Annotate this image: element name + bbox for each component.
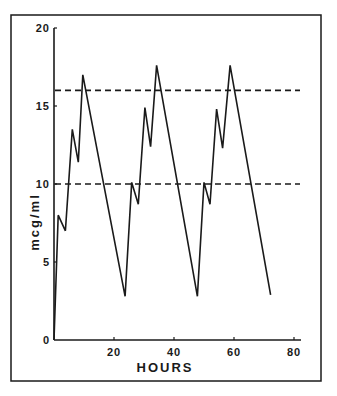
x-tick-label: 60 bbox=[227, 346, 241, 358]
y-axis-title: mcg/ml bbox=[27, 193, 42, 251]
y-tick-label: 20 bbox=[36, 22, 50, 34]
x-axis-title: HOURS bbox=[137, 360, 194, 375]
figure-frame bbox=[11, 15, 321, 381]
y-tick-label: 5 bbox=[43, 256, 50, 268]
x-tick-label: 80 bbox=[287, 346, 301, 358]
x-tick-label: 20 bbox=[107, 346, 121, 358]
concentration-line bbox=[54, 65, 271, 340]
y-tick-label: 0 bbox=[43, 334, 50, 346]
reference-lines bbox=[55, 90, 300, 184]
x-tick-label: 40 bbox=[167, 346, 181, 358]
y-tick-label: 15 bbox=[36, 100, 50, 112]
chart: 05101520 20406080 HOURS mcg/ml bbox=[0, 0, 337, 396]
y-tick-label: 10 bbox=[36, 178, 50, 190]
